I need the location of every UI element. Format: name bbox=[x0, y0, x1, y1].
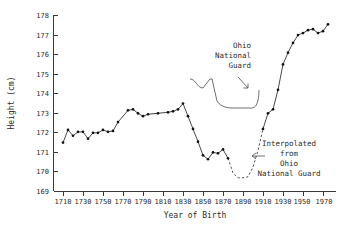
annotation-interp-line-2: from bbox=[280, 149, 299, 158]
data-point bbox=[137, 112, 140, 115]
data-point bbox=[267, 112, 270, 115]
x-tick-label-1750: 1750 bbox=[95, 198, 112, 206]
x-tick-label-1890: 1890 bbox=[235, 198, 252, 206]
y-tick-label-178: 178 bbox=[36, 12, 49, 20]
annotation-ohio-leader-line bbox=[190, 79, 259, 108]
data-point bbox=[107, 131, 110, 134]
data-point bbox=[312, 28, 315, 31]
data-point bbox=[77, 131, 80, 134]
data-point bbox=[197, 140, 200, 143]
chart-figure: 178 177 176 175 174 173 172 171 170 169 … bbox=[0, 0, 341, 226]
data-point bbox=[172, 110, 175, 113]
data-point bbox=[302, 32, 305, 35]
data-point bbox=[277, 88, 280, 91]
x-tick-label-1730: 1730 bbox=[75, 198, 92, 206]
data-point bbox=[202, 154, 205, 157]
x-tick-label-1870: 1870 bbox=[215, 198, 232, 206]
data-point bbox=[87, 137, 90, 140]
annotation-ohio-arrow-icon bbox=[238, 77, 248, 88]
data-point bbox=[327, 23, 330, 26]
data-point bbox=[187, 115, 190, 118]
data-point bbox=[182, 102, 185, 105]
y-tick-label-176: 176 bbox=[36, 51, 49, 59]
y-tick-label-175: 175 bbox=[36, 71, 49, 79]
data-point bbox=[157, 112, 160, 115]
data-point bbox=[72, 134, 75, 137]
series-line-measured-modern bbox=[263, 24, 328, 129]
data-point bbox=[192, 128, 195, 131]
y-tick-label-172: 172 bbox=[36, 129, 49, 137]
annotation-interp-line-4: National Guard bbox=[257, 169, 320, 178]
y-tick-label-170: 170 bbox=[36, 168, 49, 176]
data-point bbox=[287, 51, 290, 54]
y-tick-label-171: 171 bbox=[36, 149, 49, 157]
y-tick-label-173: 173 bbox=[36, 110, 49, 118]
annotation-interp-arrow-icon bbox=[252, 153, 265, 159]
annotation-interp-line-3: Ohio bbox=[280, 159, 299, 168]
data-point bbox=[92, 131, 95, 134]
annotation-ohio-national-guard: Ohio National Guard bbox=[190, 41, 259, 108]
annotation-ohio-line-3: Guard bbox=[228, 61, 251, 70]
data-point bbox=[142, 115, 145, 118]
data-point bbox=[292, 42, 295, 45]
x-tick-label-1830: 1830 bbox=[175, 198, 192, 206]
data-point bbox=[102, 129, 105, 132]
data-point bbox=[262, 128, 265, 131]
height-by-year-of-birth-line-chart: 178 177 176 175 174 173 172 171 170 169 … bbox=[0, 0, 341, 226]
annotation-ohio-line-1: Ohio bbox=[233, 41, 252, 50]
data-point bbox=[147, 113, 150, 116]
y-tick-label-169: 169 bbox=[36, 188, 49, 196]
data-point bbox=[222, 148, 225, 151]
data-point bbox=[322, 30, 325, 33]
data-point bbox=[212, 151, 215, 154]
data-point bbox=[217, 152, 220, 155]
data-point bbox=[272, 108, 275, 111]
data-point bbox=[82, 131, 85, 134]
x-tick-label-1950: 1950 bbox=[294, 198, 311, 206]
data-point bbox=[127, 109, 130, 112]
annotation-interp-line-1: Interpolated bbox=[262, 139, 316, 148]
annotation-ohio-line-2: National bbox=[215, 51, 251, 60]
data-point bbox=[97, 131, 100, 134]
data-point bbox=[282, 63, 285, 66]
data-point bbox=[132, 108, 135, 111]
y-tick-label-174: 174 bbox=[36, 90, 49, 98]
x-tick-label-1930: 1930 bbox=[275, 198, 292, 206]
y-axis-title: Height (cm) bbox=[7, 77, 16, 130]
data-point bbox=[112, 130, 115, 133]
series-line-measured bbox=[63, 104, 228, 160]
data-point bbox=[297, 34, 300, 37]
data-point bbox=[62, 141, 65, 144]
x-tick-label-1710: 1710 bbox=[55, 198, 72, 206]
data-point bbox=[207, 158, 210, 161]
data-point bbox=[67, 129, 70, 132]
x-axis: 1710 1730 1750 1770 1790 1810 1830 1850 … bbox=[54, 192, 337, 221]
y-axis: 178 177 176 175 174 173 172 171 170 169 … bbox=[7, 12, 58, 196]
data-point bbox=[307, 29, 310, 32]
x-tick-label-1910: 1910 bbox=[255, 198, 272, 206]
x-axis-title: Year of Birth bbox=[164, 211, 227, 220]
x-tick-label-1850: 1850 bbox=[195, 198, 212, 206]
y-tick-label-177: 177 bbox=[36, 32, 49, 40]
x-tick-label-1790: 1790 bbox=[135, 198, 152, 206]
x-tick-label-1810: 1810 bbox=[155, 198, 172, 206]
x-tick-label-1970: 1970 bbox=[316, 198, 333, 206]
x-tick-label-1770: 1770 bbox=[115, 198, 132, 206]
data-point bbox=[117, 121, 120, 124]
data-point bbox=[167, 111, 170, 114]
annotation-interpolated: Interpolated from Ohio National Guard bbox=[252, 139, 321, 178]
data-point bbox=[177, 108, 180, 111]
data-point bbox=[317, 32, 320, 35]
